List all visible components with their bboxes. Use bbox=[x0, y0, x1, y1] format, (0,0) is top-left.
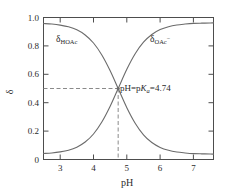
y-tick-label: 0.4 bbox=[28, 98, 40, 108]
y-tick-label: 0.2 bbox=[28, 126, 39, 136]
pka-annotation: pH=pKa=4.74 bbox=[120, 83, 171, 94]
pka-annotation-suffix: =4.74 bbox=[150, 83, 171, 93]
y-tick-label: 0.6 bbox=[28, 69, 40, 79]
chart-canvas: 0 0.2 0.4 0.6 0.8 1.0 3 4 5 6 7 pH δ δHO… bbox=[0, 0, 226, 190]
x-tick-label: 4 bbox=[91, 163, 96, 173]
y-tick-label: 1.0 bbox=[28, 13, 40, 23]
series-label-oac: δOAc− bbox=[150, 34, 171, 45]
series-label-oac-sub: OAc bbox=[154, 38, 166, 45]
series-label-oac-sup: − bbox=[167, 35, 171, 41]
svg-text:δOAc−: δOAc− bbox=[150, 34, 171, 45]
x-tick-label: 7 bbox=[191, 163, 196, 173]
y-tick-labels: 0 0.2 0.4 0.6 0.8 1.0 bbox=[28, 13, 40, 165]
series-label-hoac: δHOAc bbox=[56, 34, 78, 45]
pka-annotation-prefix: pH=p bbox=[120, 83, 141, 93]
x-axis-title: pH bbox=[121, 177, 133, 188]
svg-text:pH=pKa=4.74: pH=pKa=4.74 bbox=[120, 83, 171, 94]
y-tick-label: 0.8 bbox=[28, 41, 40, 51]
x-tick-label: 3 bbox=[58, 163, 63, 173]
svg-text:δHOAc: δHOAc bbox=[56, 34, 78, 45]
x-tick-label: 5 bbox=[125, 163, 130, 173]
x-tick-label: 6 bbox=[158, 163, 163, 173]
distribution-diagram-figure: 0 0.2 0.4 0.6 0.8 1.0 3 4 5 6 7 pH δ δHO… bbox=[0, 0, 226, 190]
series-label-hoac-sub: HOAc bbox=[60, 38, 77, 45]
x-tick-labels: 3 4 5 6 7 bbox=[58, 163, 196, 173]
y-tick-label: 0 bbox=[35, 155, 40, 165]
y-axis-title: δ bbox=[4, 89, 15, 94]
